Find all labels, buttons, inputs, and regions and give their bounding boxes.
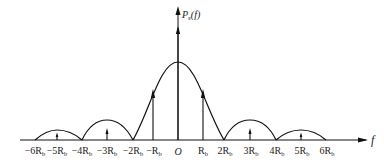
tick-label: 6Rb <box>320 145 335 157</box>
delta-arrow-icon <box>300 133 303 138</box>
tick-labels: −6Rb −5Rb −4Rb −3Rb −2Rb −Rb O Rb 2Rb 3R… <box>25 145 335 157</box>
delta-arrow-icon <box>106 128 109 134</box>
tick-label: 5Rb <box>295 145 310 157</box>
psd-diagram: f Ps(f) −6Rb −5Rb −4Rb −3Rb −2R <box>0 0 389 165</box>
continuous-spectrum <box>35 62 326 140</box>
y-axis: Ps(f) <box>176 6 201 140</box>
delta-arrow-icon <box>249 128 252 134</box>
tick-label: Rb <box>198 145 208 157</box>
discrete-spectrum <box>56 26 303 140</box>
delta-arrow-icon <box>56 133 59 138</box>
tick-label: −3Rb <box>97 145 118 157</box>
tick-label: −4Rb <box>72 145 93 157</box>
tick-label: 3Rb <box>244 145 259 157</box>
tick-label: −2Rb <box>123 145 144 157</box>
tick-label: −Rb <box>146 145 162 157</box>
tick-label: 4Rb <box>270 145 285 157</box>
x-axis-label: f <box>371 133 376 147</box>
y-axis-label: Ps(f) <box>181 9 201 22</box>
origin-label: O <box>174 146 181 157</box>
tick-label: −5Rb <box>47 145 68 157</box>
tick-label: −6Rb <box>25 145 46 157</box>
delta-arrow-icon <box>176 26 180 34</box>
x-axis-arrow-icon <box>358 138 368 143</box>
tick-label: 2Rb <box>218 145 233 157</box>
y-axis-arrow-icon <box>176 6 181 15</box>
